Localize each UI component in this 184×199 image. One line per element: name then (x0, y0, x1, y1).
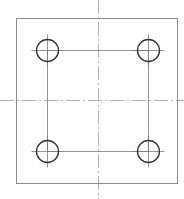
technical-drawing (0, 0, 184, 199)
background (0, 0, 184, 199)
